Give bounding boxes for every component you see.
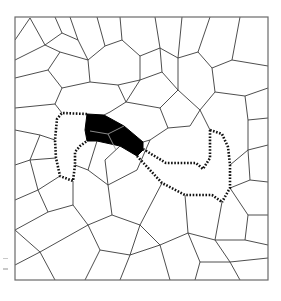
margin-mark (3, 268, 8, 270)
mesh-diagram (0, 0, 281, 301)
mesh-figure (0, 0, 281, 301)
margin-mark (3, 258, 8, 259)
